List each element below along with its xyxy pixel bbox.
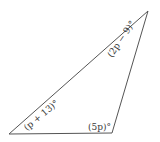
angle-label-top-right: (2p − 9)° (105, 19, 137, 59)
triangle-figure: (p + 13)° (2p − 9)° (5p)° (0, 0, 160, 142)
triangle-diagram: (p + 13)° (2p − 9)° (5p)° (0, 0, 160, 142)
angle-label-bottom-right: (5p)° (88, 122, 111, 132)
angle-label-bottom-left: (p + 13)° (22, 98, 61, 133)
